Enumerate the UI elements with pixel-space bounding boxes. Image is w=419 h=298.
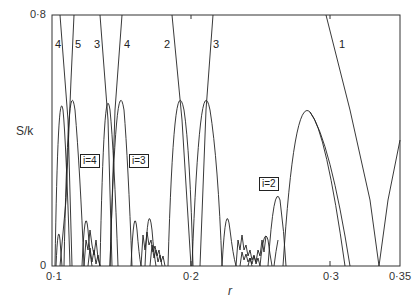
curve-label-3b: 3	[213, 38, 219, 50]
curve-label-1: 1	[339, 38, 345, 50]
x-axis-label: r	[228, 284, 232, 298]
chart-plot	[0, 0, 419, 298]
curve-label-2: 2	[164, 38, 170, 50]
curve-5	[60, 15, 74, 266]
x-tick-0-1: 0·1	[46, 270, 62, 282]
curve-label-5: 5	[75, 38, 81, 50]
curve-label-3a: 3	[94, 38, 100, 50]
y-tick-top: 0·8	[30, 8, 46, 20]
arch-6	[192, 100, 222, 266]
y-axis-label: S/k	[16, 124, 33, 138]
arch-7b	[310, 112, 350, 266]
x-tick-0-35: 0·35	[389, 270, 411, 282]
x-ticks	[191, 15, 330, 266]
curve-1b	[379, 140, 400, 266]
curve-label-4b: 4	[124, 38, 130, 50]
curve-2	[172, 15, 191, 266]
arch-4	[110, 100, 132, 266]
region-label-i2: i=2	[259, 177, 279, 191]
arch-3	[100, 103, 118, 266]
curve-label-4a: 4	[55, 38, 61, 50]
x-tick-0-3: 0·3	[323, 270, 339, 282]
curve-4a	[60, 15, 72, 266]
curve-1	[326, 15, 379, 266]
x-tick-0-2: 0·2	[183, 270, 199, 282]
region-label-i3: i=3	[129, 154, 149, 168]
curve-3a	[100, 15, 112, 266]
region-label-i4: i=4	[80, 154, 100, 168]
curve-4b	[110, 15, 122, 266]
curve-3b	[200, 15, 213, 266]
data-curves	[55, 15, 400, 266]
